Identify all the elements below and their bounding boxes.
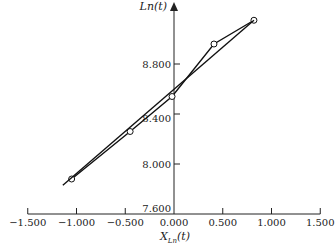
y-tick-label: 7.600 <box>142 203 171 214</box>
y-axis-arrow-icon <box>170 2 178 11</box>
x-tick-labels: −1.500−1.000−0.5000.0000.5001.0001.500 <box>9 217 334 228</box>
x-tick-label: −1.500 <box>9 217 46 228</box>
y-tick-label: 8.000 <box>142 159 171 170</box>
y-axis-title: Ln(t) <box>139 0 167 13</box>
data-point-marker <box>211 41 217 47</box>
chart: −1.500−1.000−0.5000.0000.5001.0001.500 7… <box>0 0 336 251</box>
x-tick-label: 0.000 <box>160 217 189 228</box>
x-axis-title: XLn(t) <box>159 230 190 245</box>
axes <box>28 8 321 214</box>
x-tick-label: 1.500 <box>306 217 335 228</box>
x-tick-label: −0.500 <box>107 217 144 228</box>
data-point-marker <box>169 94 175 100</box>
x-tick-label: 1.000 <box>257 217 286 228</box>
y-tick-label: 8.800 <box>142 59 171 70</box>
x-tick-label: 0.500 <box>208 217 237 228</box>
x-tick-label: −1.000 <box>58 217 95 228</box>
y-tick-labels: 7.6008.0008.4008.800 <box>142 59 171 214</box>
